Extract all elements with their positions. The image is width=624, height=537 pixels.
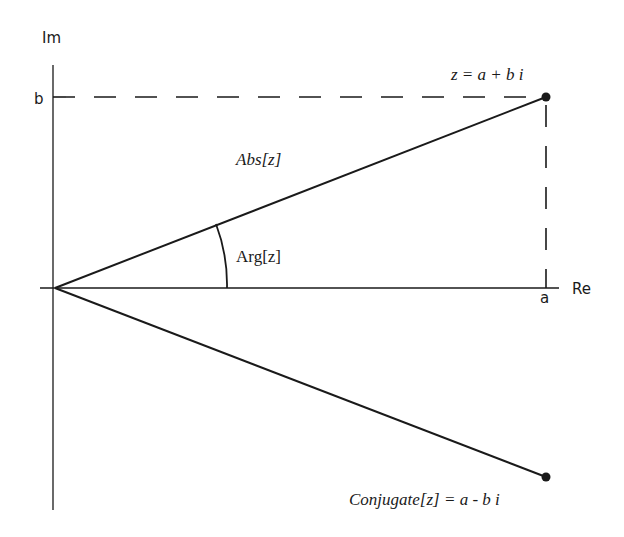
b-tick-label: b <box>34 90 44 108</box>
imaginary-axis-label: Im <box>42 29 61 47</box>
point-conjugate <box>542 473 551 482</box>
point-z <box>542 93 551 102</box>
conjugate-label: Conjugate[z] = a - b i <box>349 490 500 509</box>
point-z-label: z = a + b i <box>450 65 524 84</box>
a-tick-label: a <box>540 289 549 307</box>
conjugate-line <box>55 288 546 477</box>
argument-label: Arg[z] <box>236 247 281 266</box>
complex-plane-diagram: Im b Re a z = a + b i Abs[z] Arg[z] Conj… <box>0 0 624 537</box>
argument-arc <box>216 224 227 288</box>
real-axis-label: Re <box>572 280 591 298</box>
modulus-label: Abs[z] <box>235 150 281 169</box>
modulus-line <box>55 97 546 288</box>
